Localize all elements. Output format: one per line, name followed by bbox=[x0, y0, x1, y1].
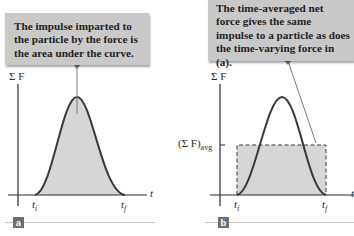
t-initial-label-a: ti bbox=[32, 198, 37, 213]
callout-panel-a: The impulse imparted to the particle by … bbox=[5, 13, 149, 65]
y-axis-label-b: Σ F bbox=[211, 70, 226, 82]
t-final-label-b: tf bbox=[322, 198, 327, 213]
callout-text-a: The impulse imparted to the particle by … bbox=[14, 20, 143, 60]
average-force-area-b bbox=[237, 145, 326, 195]
x-axis-label-a: t bbox=[150, 187, 153, 199]
t-final-label-a: tf bbox=[121, 198, 126, 213]
panel-a-rule bbox=[5, 222, 155, 223]
sum-f-text: Σ F bbox=[9, 70, 24, 82]
sum-f-text: Σ F bbox=[211, 70, 226, 82]
t-sub: f bbox=[124, 204, 126, 213]
panel-a-graph bbox=[8, 64, 147, 206]
average-force-label: (Σ F)avg bbox=[178, 137, 212, 152]
y-axis-label-a: Σ F bbox=[9, 70, 24, 82]
callout-panel-b: The time-averaged net force gives the sa… bbox=[208, 0, 354, 61]
t-sub: i bbox=[35, 204, 37, 213]
panel-b-graph bbox=[210, 60, 354, 206]
t-sub: f bbox=[325, 204, 327, 213]
panel-b-badge: b bbox=[218, 217, 229, 228]
callout-text-b: The time-averaged net force gives the sa… bbox=[216, 2, 350, 69]
callout-pointer-b bbox=[288, 61, 316, 143]
avg-sub: avg bbox=[201, 143, 213, 152]
t-sub: i bbox=[237, 204, 239, 213]
panel-a-badge: a bbox=[13, 217, 24, 228]
avg-text: (Σ F) bbox=[178, 137, 201, 149]
t-initial-label-b: ti bbox=[234, 198, 239, 213]
